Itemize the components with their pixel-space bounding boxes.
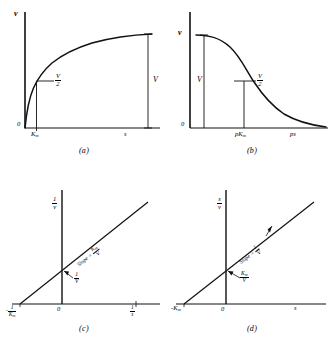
y-intercept-arrow-head [64,271,69,276]
panel-a-origin-label: 0 [17,121,20,128]
panel-b: v V 0 pKm ps V 2 (b) [168,0,336,174]
panel-a: v 0 Km s V 2 V (a) [0,0,168,174]
panel-a-half-v-label: V 2 [55,73,61,87]
enzyme-kinetics-figure: v 0 Km s V 2 V (a) v V 0 [0,0,336,348]
panel-d-x-intercept-label: -Km [171,305,181,313]
panel-c-x-axis-den: s [130,311,135,318]
panel-d-y-axis-label: s v [217,196,222,210]
panel-b-half-v-label: V 2 [257,73,263,87]
panel-a-y-axis-label: v [14,10,18,18]
panel-c-x-intercept-den: Km [8,311,17,318]
panel-b-caption: (b) [168,146,336,155]
panel-b-half-v-den: 2 [257,80,263,88]
panel-a-km-tick-label: Km [31,131,39,139]
panel-c-caption: (c) [0,324,168,333]
panel-d-y-axis-den: v [217,203,222,211]
panel-c-x-axis-label: 1 s [130,305,135,317]
panel-d-origin-label: 0 [221,306,224,313]
panel-c-y-axis-label: 1 v [52,196,57,210]
panel-c: 1 v 0 - 1 Km 1 s 1 V Slope = [0,174,168,348]
panel-b-v-bracket-label: V [197,76,202,84]
panel-b-origin-label: 0 [181,121,184,128]
panel-d-x-axis-label: s [294,305,297,312]
panel-d-y-intercept-label: Km V [240,271,249,283]
panel-c-y-intercept-label: 1 V [74,272,79,284]
panel-c-y-intercept-den: V [74,278,79,285]
panel-d-y-intercept-den: V [240,277,249,284]
panel-b-x-tick-label: pKm [235,131,246,139]
panel-a-caption: (a) [0,146,168,155]
panel-d-caption: (d) [168,324,336,333]
panel-b-y-axis-label: v [178,29,182,37]
y-intercept-arrow-head [228,271,234,276]
panel-c-origin-label: 0 [57,306,60,313]
panel-a-x-axis-label: s [124,131,127,138]
panel-d: s v 0 -Km s Km V Slope = 1 V (d) [168,174,336,348]
slope-arrow-head [268,226,273,233]
panel-c-y-axis-den: v [52,203,57,211]
panel-b-x-axis-label: ps [290,131,296,138]
panel-a-v-bracket-label: V [153,76,158,84]
panel-a-half-v-den: 2 [55,80,61,88]
panel-c-x-intercept-label: - 1 Km [6,305,16,317]
